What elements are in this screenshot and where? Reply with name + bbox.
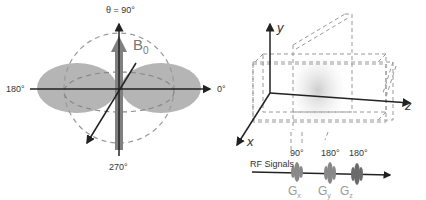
angle-0-label: 0° xyxy=(217,84,226,94)
gradient-z-label: Gz xyxy=(340,184,353,199)
z-axis-label: z xyxy=(405,98,412,113)
theta-label: θ = 90° xyxy=(106,5,135,15)
angle-180-label: 180° xyxy=(6,84,25,94)
y-axis-label: y xyxy=(277,20,284,35)
gradient-y-label: Gy xyxy=(318,184,331,199)
diagram-canvas xyxy=(0,0,426,200)
dipole-diagram xyxy=(30,24,210,156)
pulse-angle-2: 180° xyxy=(321,148,340,158)
rf-signals-label: RF Signals xyxy=(250,159,294,169)
x-axis-label: x xyxy=(247,134,254,149)
pulse-angle-3: 180° xyxy=(349,148,368,158)
pulse-angle-1: 90° xyxy=(290,148,304,158)
gradient-x-label: Gx xyxy=(288,184,301,199)
angle-270-label: 270° xyxy=(109,162,128,172)
b0-label: B0 xyxy=(133,36,149,56)
